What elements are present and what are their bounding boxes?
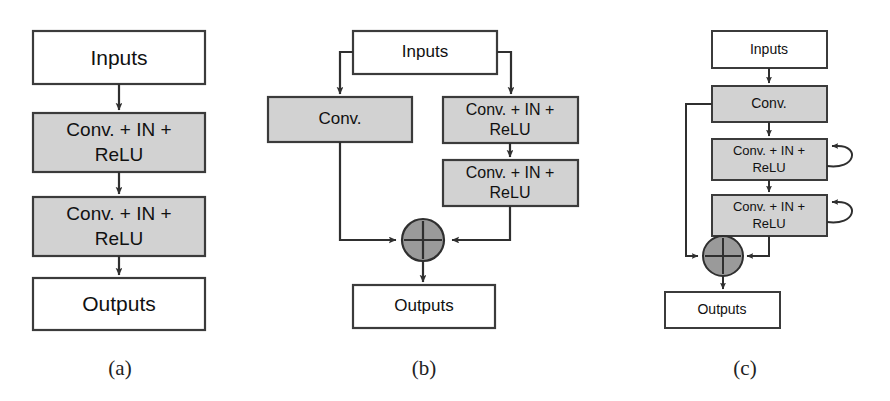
panel-b-caption: (b) — [412, 356, 437, 380]
panel-a: Inputs Conv. + IN + ReLU Conv. + IN + Re… — [33, 31, 205, 380]
node-conv-in-relu-1-a[interactable]: Conv. + IN + ReLU — [33, 113, 205, 172]
node-outputs-b[interactable]: Outputs — [353, 285, 495, 328]
node-conv-in-relu-2-c[interactable]: Conv. + IN + ReLU — [712, 195, 827, 236]
conv-box-label: Conv. — [751, 95, 787, 111]
conv-in-relu-box-2-label-line2: ReLU — [752, 216, 785, 231]
conv-in-relu-box-1-label-line2: ReLU — [490, 121, 531, 138]
inputs-box-label: Inputs — [750, 41, 788, 57]
conv-in-relu-box-2-label-line1: Conv. + IN + — [466, 164, 555, 181]
node-inputs-a[interactable]: Inputs — [33, 31, 205, 84]
conv-in-relu-box-1-label-line1: Conv. + IN + — [66, 119, 171, 140]
node-conv-b[interactable]: Conv. — [268, 97, 412, 142]
conv-in-relu-box-2-label-line2: ReLU — [95, 228, 144, 249]
node-inputs-c[interactable]: Inputs — [712, 31, 827, 68]
node-conv-in-relu-1-b[interactable]: Conv. + IN + ReLU — [443, 97, 578, 143]
conv-box-label: Conv. — [318, 109, 361, 128]
panel-c-caption: (c) — [733, 356, 756, 380]
node-conv-in-relu-1-c[interactable]: Conv. + IN + ReLU — [712, 139, 827, 180]
node-sum-c[interactable] — [703, 236, 743, 276]
conv-in-relu-box-2-label-line1: Conv. + IN + — [733, 199, 805, 214]
node-conv-c[interactable]: Conv. — [712, 86, 827, 122]
node-conv-in-relu-2-b[interactable]: Conv. + IN + ReLU — [443, 160, 578, 206]
inputs-box-label: Inputs — [90, 46, 147, 69]
node-inputs-b[interactable]: Inputs — [353, 31, 497, 74]
inputs-box-label: Inputs — [402, 42, 448, 61]
conv-in-relu-box-1-label-line1: Conv. + IN + — [733, 143, 805, 158]
node-conv-in-relu-2-a[interactable]: Conv. + IN + ReLU — [33, 197, 205, 256]
node-outputs-c[interactable]: Outputs — [665, 292, 780, 328]
node-sum-b[interactable] — [402, 219, 444, 261]
panel-a-caption: (a) — [108, 356, 131, 380]
outputs-box-label: Outputs — [697, 301, 746, 317]
architecture-diagram: Inputs Conv. + IN + ReLU Conv. + IN + Re… — [0, 0, 890, 401]
conv-in-relu-box-1-label-line1: Conv. + IN + — [466, 101, 555, 118]
conv-in-relu-box-2-label-line1: Conv. + IN + — [66, 203, 171, 224]
outputs-box-label: Outputs — [82, 292, 156, 315]
conv-in-relu-box-1-label-line2: ReLU — [95, 144, 144, 165]
figure-root: Inputs Conv. + IN + ReLU Conv. + IN + Re… — [0, 0, 890, 401]
outputs-box-label: Outputs — [394, 296, 454, 315]
conv-in-relu-box-2-label-line2: ReLU — [490, 184, 531, 201]
conv-in-relu-box-1-label-line2: ReLU — [752, 160, 785, 175]
node-outputs-a[interactable]: Outputs — [33, 278, 205, 330]
